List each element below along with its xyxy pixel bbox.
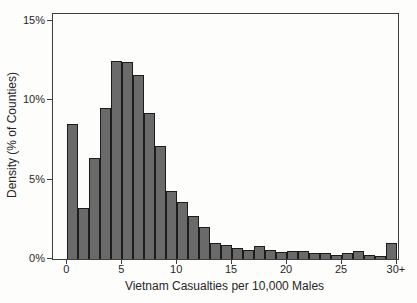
histogram-bar [254,246,265,259]
histogram-bar [78,208,89,259]
histogram-bar [309,253,320,259]
histogram-bar [342,253,353,259]
x-axis-tick-label: 30+ [387,263,406,276]
histogram-bar [67,124,78,259]
histogram-bar [386,243,397,259]
histogram-bar [144,113,155,259]
histogram-bar [210,243,221,259]
histogram-bar [122,62,133,259]
y-axis-tick-mark [47,258,52,259]
y-axis-tick-mark [47,99,52,100]
y-axis-tick-mark [47,179,52,180]
histogram-bar [375,256,386,259]
x-axis-tick-label: 5 [118,263,124,276]
x-axis-tick-label: 20 [280,263,292,276]
histogram-bar [221,245,232,259]
histogram-bar [133,75,144,259]
histogram-bar [232,248,243,259]
histogram-bar [100,108,111,259]
histogram-bar [287,251,298,259]
y-axis-tick-label: 15% [23,14,45,27]
y-axis-tick-mark [47,20,52,21]
y-axis-tick-label: 10% [23,93,45,106]
plot-area [52,13,399,260]
histogram-figure: Density (% of Counties) Vietnam Casualti… [0,0,417,303]
histogram-bar [243,250,254,259]
histogram-bar [155,146,166,259]
histogram-bar [177,202,188,259]
histogram-bar [188,216,199,259]
x-axis-tick-label: 10 [170,263,182,276]
histogram-bar [276,252,287,259]
histogram-bar [353,251,364,259]
histogram-bar [364,255,375,259]
y-axis-tick-label: 5% [29,172,45,185]
histogram-bar [166,191,177,259]
histogram-bar [89,158,100,260]
x-axis-tick-label: 0 [63,263,69,276]
histogram-bar [199,227,210,259]
x-axis-tick-label: 15 [225,263,237,276]
histogram-bar [298,251,309,259]
x-axis-title: Vietnam Casualties per 10,000 Males [52,279,397,293]
histogram-bar [320,253,331,259]
histogram-bar [111,61,122,259]
histogram-bar [265,250,276,259]
y-axis-title: Density (% of Counties) [5,72,19,198]
x-axis-tick-label: 25 [335,263,347,276]
y-axis-tick-label: 0% [29,252,45,265]
